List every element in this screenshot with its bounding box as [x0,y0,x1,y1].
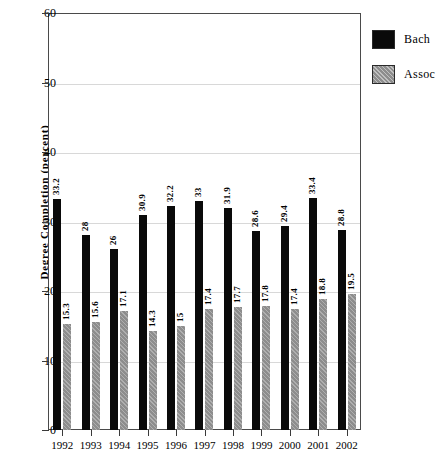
bar-bach-1993: 28 [82,235,90,430]
bar-assoc-1999: 17.8 [262,306,270,430]
legend-label: Assoc [404,67,435,82]
bar-value-label: 17.4 [289,288,299,305]
legend-swatch-bach [372,30,395,49]
bar-value-label: 17.4 [203,288,213,305]
bar-value-label: 33 [193,187,203,197]
bar-group: 31.917.7 [219,13,247,430]
y-axis-tick-mark [42,430,49,431]
x-axis-tick-mark [205,430,206,436]
bar-group: 28.617.8 [247,13,275,430]
bar-bach-1999: 28.6 [252,231,260,430]
bar-assoc-1996: 15 [177,326,185,430]
bar-value-label: 33.4 [307,177,317,194]
bar-group: 32.215 [162,13,190,430]
legend: BachAssoc [372,30,435,100]
bar-group: 28.819.5 [333,13,361,430]
bar-assoc-1997: 17.4 [205,309,213,430]
bar-group: 30.914.3 [133,13,161,430]
bar-value-label: 32.2 [165,185,175,202]
bar-assoc-2000: 17.4 [291,309,299,430]
bar-value-label: 31.9 [222,187,232,204]
x-axis-tick-mark [233,430,234,436]
x-axis-tick-mark [318,430,319,436]
bar-bach-1996: 32.2 [167,206,175,430]
bar-bach-2001: 33.4 [309,198,317,430]
bar-assoc-1995: 14.3 [149,331,157,430]
bar-bach-1995: 30.9 [139,215,147,430]
bar-assoc-1994: 17.1 [120,311,128,430]
bar-value-label: 19.5 [346,274,356,291]
bar-value-label: 17.8 [260,285,270,302]
bar-chart: Degree Completion (percent) 010203040506… [0,0,442,468]
bar-value-label: 28.8 [336,209,346,226]
x-axis-tick-mark [119,430,120,436]
bar-group: 3317.4 [190,13,218,430]
x-axis-tick-mark [347,430,348,436]
bar-value-label: 30.9 [137,194,147,211]
bar-value-label: 28 [80,222,90,232]
bar-bach-1994: 26 [110,249,118,430]
x-axis-tick-mark [290,430,291,436]
bar-value-label: 33.2 [51,178,61,195]
bar-assoc-1998: 17.7 [234,307,242,430]
bar-bach-2002: 28.8 [338,230,346,430]
bar-value-label: 15.3 [61,303,71,320]
bar-group: 2617.1 [105,13,133,430]
x-axis-tick-mark [261,430,262,436]
legend-label: Bach [404,32,430,47]
bars-layer: 33.215.32815.62617.130.914.332.2153317.4… [48,13,361,430]
bar-group: 33.418.8 [304,13,332,430]
bar-value-label: 15 [175,312,185,322]
x-axis-tick-mark [62,430,63,436]
x-axis-tick-mark [91,430,92,436]
bar-value-label: 28.6 [250,210,260,227]
bar-bach-2000: 29.4 [281,226,289,430]
x-axis-tick-mark [176,430,177,436]
bar-value-label: 17.1 [118,290,128,307]
bar-assoc-1992: 15.3 [63,324,71,430]
bar-assoc-2002: 19.5 [348,294,356,430]
bar-value-label: 17.7 [232,286,242,303]
bar-value-label: 15.6 [90,301,100,318]
legend-item-bach[interactable]: Bach [372,30,435,49]
bar-group: 2815.6 [76,13,104,430]
legend-item-assoc[interactable]: Assoc [372,65,435,84]
bar-value-label: 14.3 [147,310,157,327]
bar-value-label: 29.4 [279,205,289,222]
x-axis-tick-mark [148,430,149,436]
bar-group: 29.417.4 [276,13,304,430]
legend-swatch-assoc [372,65,395,84]
bar-assoc-2001: 18.8 [319,299,327,430]
x-axis-tick-label-2002: 2002 [330,440,364,451]
bar-value-label: 26 [108,236,118,246]
bar-assoc-1993: 15.6 [92,322,100,430]
bar-bach-1997: 33 [195,201,203,430]
bar-bach-1998: 31.9 [224,208,232,430]
bar-value-label: 18.8 [317,278,327,295]
bar-group: 33.215.3 [48,13,76,430]
